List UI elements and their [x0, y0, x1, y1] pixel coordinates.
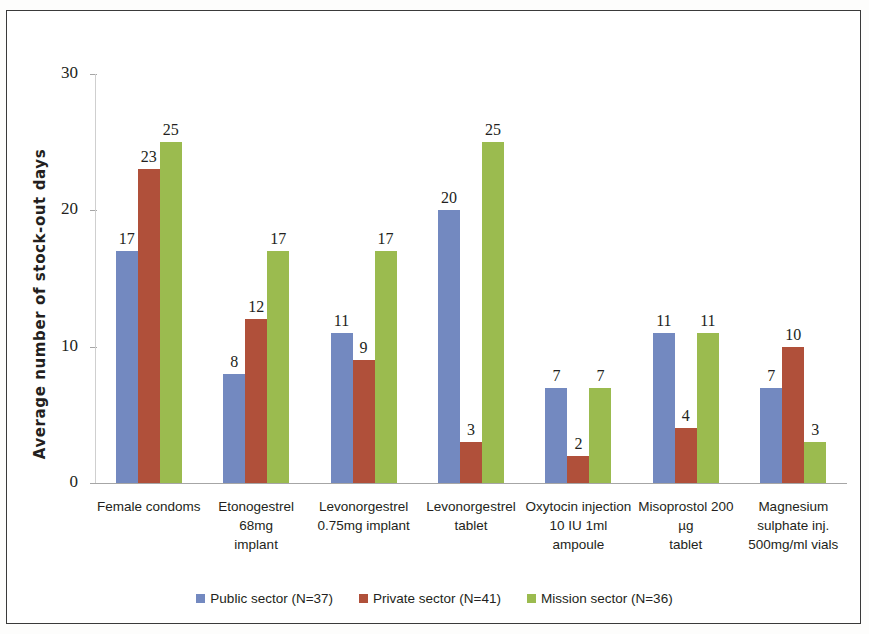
- bar-group: 81217: [223, 72, 289, 483]
- bar-column[interactable]: 4: [675, 72, 697, 483]
- bar-column[interactable]: 2: [567, 72, 589, 483]
- bar[interactable]: [116, 251, 138, 483]
- bar-group: 20325: [438, 72, 504, 483]
- x-axis-category-label: Etonogestrel 68mgimplant: [202, 497, 309, 554]
- chart-legend: Public sector (N=37)Private sector (N=41…: [0, 591, 869, 606]
- legend-swatch-icon: [527, 594, 536, 603]
- bar[interactable]: [138, 169, 160, 483]
- x-axis-category-label: Magnesiumsulphate inj.500mg/ml vials: [740, 497, 847, 554]
- bar-value-label: 17: [364, 230, 408, 248]
- bar-column[interactable]: 8: [223, 72, 245, 483]
- bar[interactable]: [782, 347, 804, 483]
- bar[interactable]: [267, 251, 289, 483]
- bar-group-bars: 11411: [653, 72, 719, 483]
- y-tick-label: 0: [44, 472, 78, 492]
- bar[interactable]: [353, 360, 375, 483]
- y-tick-label: 30: [44, 63, 78, 83]
- bar-column[interactable]: 3: [804, 72, 826, 483]
- legend-swatch-icon: [196, 594, 205, 603]
- x-axis-category-label-line: Magnesium: [740, 497, 847, 516]
- x-axis-category-label-line: Levonorgestrel: [310, 497, 417, 516]
- bar-chart: Average number of stock-out days 0102030…: [0, 0, 869, 634]
- x-axis-line: [95, 483, 847, 484]
- x-axis-category-label-line: 500mg/ml vials: [740, 535, 847, 554]
- bar-group: 172325: [116, 72, 182, 483]
- bar-column[interactable]: 7: [589, 72, 611, 483]
- bar[interactable]: [697, 333, 719, 483]
- bar-value-label: 25: [149, 121, 193, 139]
- x-axis-category-label-line: implant: [202, 535, 309, 554]
- bar[interactable]: [567, 456, 589, 483]
- bar[interactable]: [160, 142, 182, 483]
- legend-item[interactable]: Public sector (N=37): [196, 591, 333, 606]
- bar-column[interactable]: 17: [267, 72, 289, 483]
- bar[interactable]: [460, 442, 482, 483]
- bar-group-bars: 172325: [116, 72, 182, 483]
- bar-column[interactable]: 17: [375, 72, 397, 483]
- bar-column[interactable]: 17: [116, 72, 138, 483]
- chart-page: Average number of stock-out days 0102030…: [0, 0, 869, 634]
- bar-group: 11411: [653, 72, 719, 483]
- bar[interactable]: [675, 428, 697, 483]
- bar[interactable]: [760, 388, 782, 483]
- bar-column[interactable]: 11: [697, 72, 719, 483]
- bar-group-bars: 20325: [438, 72, 504, 483]
- plot-area: 172325812171191720325727114117103: [95, 72, 847, 483]
- x-axis-category-label-line: Oxytocin injection: [525, 497, 632, 516]
- bar-group: 11917: [331, 72, 397, 483]
- x-axis-category-label-line: Misoprostol 200 µg: [632, 497, 739, 535]
- bar-group-bars: 727: [545, 72, 611, 483]
- legend-label: Mission sector (N=36): [541, 591, 673, 606]
- legend-label: Private sector (N=41): [373, 591, 501, 606]
- x-axis-category-label: Misoprostol 200 µgtablet: [632, 497, 739, 554]
- x-axis-category-label-line: sulphate inj.: [740, 516, 847, 535]
- y-tick-label: 20: [44, 199, 78, 219]
- x-axis-labels: Female condomsEtonogestrel 68mgimplantLe…: [95, 497, 847, 597]
- bar-group-bars: 81217: [223, 72, 289, 483]
- bar[interactable]: [589, 388, 611, 483]
- x-axis-category-label-line: 10 IU 1ml ampoule: [525, 516, 632, 554]
- x-axis-category-label: Levonorgestrel0.75mg implant: [310, 497, 417, 535]
- y-tick-label: 10: [44, 336, 78, 356]
- legend-item[interactable]: Private sector (N=41): [359, 591, 501, 606]
- bar-group-bars: 11917: [331, 72, 397, 483]
- legend-item[interactable]: Mission sector (N=36): [527, 591, 673, 606]
- x-axis-category-label-line: tablet: [417, 516, 524, 535]
- bar[interactable]: [438, 210, 460, 483]
- bar[interactable]: [482, 142, 504, 483]
- bar-value-label: 11: [686, 312, 730, 330]
- bar[interactable]: [245, 319, 267, 483]
- x-axis-category-label-line: Etonogestrel 68mg: [202, 497, 309, 535]
- x-axis-category-label-line: tablet: [632, 535, 739, 554]
- bar-column[interactable]: 12: [245, 72, 267, 483]
- legend-swatch-icon: [359, 594, 368, 603]
- bar-group: 727: [545, 72, 611, 483]
- bar[interactable]: [375, 251, 397, 483]
- x-axis-category-label: Female condoms: [95, 497, 202, 516]
- bar-group-bars: 7103: [760, 72, 826, 483]
- bar-column[interactable]: 25: [482, 72, 504, 483]
- bar-value-label: 17: [256, 230, 300, 248]
- bar-column[interactable]: 7: [545, 72, 567, 483]
- bar-group: 7103: [760, 72, 826, 483]
- x-axis-category-label-line: Levonorgestrel: [417, 497, 524, 516]
- bar-column[interactable]: 9: [353, 72, 375, 483]
- bar[interactable]: [804, 442, 826, 483]
- bar-column[interactable]: 7: [760, 72, 782, 483]
- bar-column[interactable]: 11: [331, 72, 353, 483]
- legend-label: Public sector (N=37): [210, 591, 333, 606]
- x-axis-category-label: Oxytocin injection10 IU 1ml ampoule: [525, 497, 632, 554]
- bar-value-label: 25: [471, 121, 515, 139]
- bar[interactable]: [223, 374, 245, 483]
- x-axis-category-label-line: 0.75mg implant: [310, 516, 417, 535]
- x-axis-category-label-line: Female condoms: [95, 497, 202, 516]
- bar-value-label: 7: [578, 367, 622, 385]
- bar-value-label: 3: [793, 421, 837, 439]
- bar-column[interactable]: 25: [160, 72, 182, 483]
- x-axis-category-label: Levonorgestreltablet: [417, 497, 524, 535]
